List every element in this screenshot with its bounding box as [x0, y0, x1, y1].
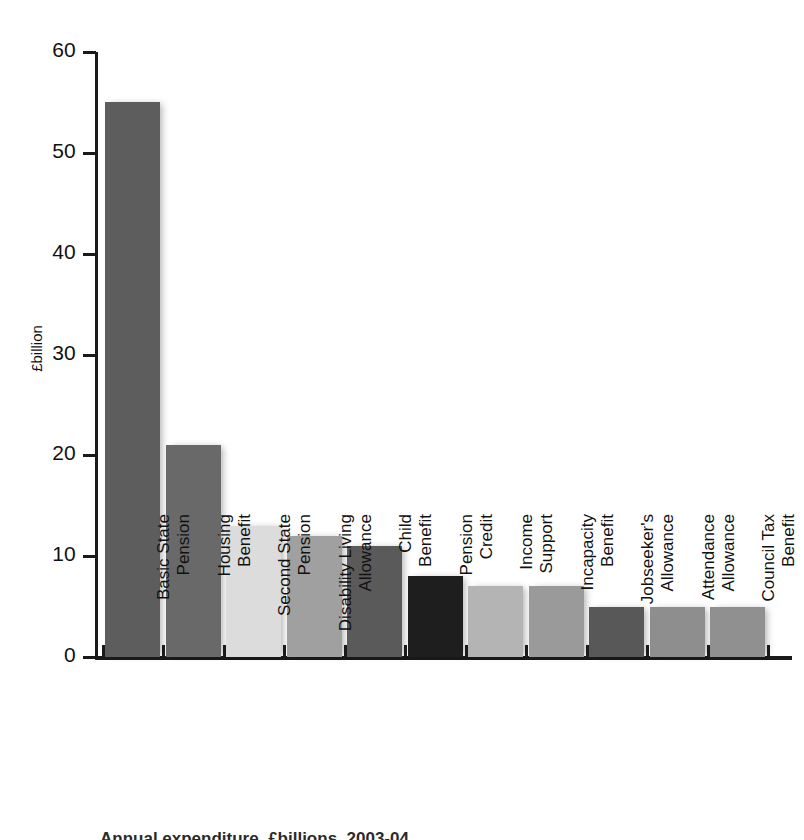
y-axis-title: £billion — [28, 289, 45, 409]
x-axis-tick-label: IncapacityBenefit — [578, 514, 636, 664]
x-axis-tick — [223, 645, 226, 658]
x-axis-tick-label-line: Benefit — [416, 514, 436, 567]
bar — [105, 102, 160, 657]
y-axis-tick — [83, 454, 96, 457]
x-axis-tick-label-line: Disability Living — [336, 514, 356, 631]
x-axis-tick — [283, 645, 286, 658]
x-axis-tick — [162, 645, 165, 658]
x-axis-tick-label-line: Support — [537, 514, 557, 574]
x-axis-tick — [767, 645, 770, 658]
x-axis-tick-label-line: Incapacity — [578, 514, 598, 591]
x-axis-tick-label: Second StatePension — [275, 514, 333, 664]
x-axis-tick-label: Jobseeker'sAllowance — [638, 514, 696, 664]
x-axis-tick — [707, 645, 710, 658]
x-axis-tick-label-line: Benefit — [779, 514, 799, 567]
x-axis-tick — [646, 645, 649, 658]
x-axis-tick — [465, 645, 468, 658]
x-axis-tick-label: HousingBenefit — [215, 514, 273, 664]
y-axis-tick-label: 40 — [16, 240, 76, 264]
x-axis-tick-label-line: Jobseeker's — [638, 514, 658, 604]
x-axis-tick-label-line: Attendance — [699, 514, 719, 600]
x-axis-tick-label-line: Allowance — [356, 514, 376, 592]
y-axis-tick — [83, 555, 96, 558]
x-axis-tick-label-line: Second State — [275, 514, 295, 616]
y-axis-tick-label: 60 — [16, 38, 76, 62]
y-axis-tick — [83, 354, 96, 357]
y-axis-tick — [83, 656, 96, 659]
y-axis-tick-label: 0 — [16, 643, 76, 667]
x-axis-tick-label-line: Pension — [295, 514, 315, 575]
x-axis-tick-label-line: Pension — [174, 514, 194, 575]
y-axis-tick-label: 20 — [16, 441, 76, 465]
y-tick-label-group: 0102030405060 — [0, 0, 76, 840]
x-axis-tick-label: Disability LivingAllowance — [336, 514, 394, 664]
x-axis-tick-label: Basic StatePension — [154, 514, 212, 664]
x-axis-tick — [525, 645, 528, 658]
x-axis-tick-label-line: Housing — [215, 514, 235, 576]
x-axis-tick — [102, 645, 105, 658]
x-axis-tick-label-line: Council Tax — [759, 514, 779, 602]
y-axis-tick — [83, 152, 96, 155]
y-axis-tick-label: 50 — [16, 139, 76, 163]
x-axis-tick-label-line: Child — [396, 514, 416, 553]
x-axis-tick — [404, 645, 407, 658]
y-axis-tick — [83, 51, 96, 54]
x-axis-tick-label: AttendanceAllowance — [699, 514, 757, 664]
x-axis-tick-label-line: Benefit — [598, 514, 618, 567]
bar-chart-figure: 0102030405060 £billion Basic StatePensio… — [0, 0, 804, 840]
y-axis-tick-label: 30 — [16, 341, 76, 365]
x-axis-tick-label: PensionCredit — [457, 514, 515, 664]
x-axis-tick-label-line: Allowance — [719, 514, 739, 592]
y-axis-tick — [83, 253, 96, 256]
x-axis-tick — [586, 645, 589, 658]
y-axis-tick-label: 10 — [16, 542, 76, 566]
x-axis-tick-label-line: Benefit — [235, 514, 255, 567]
x-axis-tick-label: IncomeSupport — [517, 514, 575, 664]
figure-caption: Annual expenditure, £billions, 2003-04 — [100, 829, 409, 840]
x-axis-tick — [344, 645, 347, 658]
x-axis-tick-label: Council TaxBenefit — [759, 514, 804, 664]
x-axis-tick-label-line: Pension — [457, 514, 477, 575]
x-axis-tick-label-line: Credit — [477, 514, 497, 559]
x-axis-tick-label-line: Income — [517, 514, 537, 570]
x-axis-tick-label-line: Allowance — [658, 514, 678, 592]
x-axis-label-group: Basic StatePensionHousingBenefitSecond S… — [98, 664, 792, 814]
x-axis-tick-label-line: Basic State — [154, 514, 174, 600]
x-axis-tick-label: ChildBenefit — [396, 514, 454, 664]
